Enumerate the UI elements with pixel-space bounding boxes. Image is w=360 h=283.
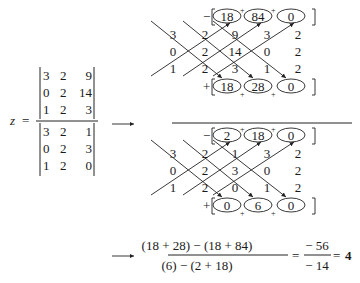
plus-product: 6: [255, 198, 262, 213]
result-expression: (18 + 28) − (18 + 84) (6) − (2 + 18) = −…: [142, 238, 352, 273]
grid-cell: 14: [229, 44, 243, 59]
matrix-cell: 2: [60, 124, 67, 139]
matrix-cell: 0: [43, 141, 50, 156]
grid-cell: 2: [295, 180, 302, 195]
diagonal-arrow-icon: [213, 140, 286, 197]
numerator-determinant: 3 2 9 0 2 14 1 2 3: [40, 67, 94, 119]
grid-cell: 3: [170, 146, 177, 161]
z-variable: z: [9, 113, 15, 128]
plus-product: 0: [288, 79, 295, 94]
matrix-cell: 0: [43, 85, 50, 100]
plus-sign: +: [240, 209, 245, 218]
grid-cell: 3: [264, 146, 271, 161]
matrix-cell: 2: [60, 68, 67, 83]
plus-sign: +: [271, 209, 276, 218]
minus-product: 84: [252, 9, 266, 24]
grid-cell: 3: [232, 163, 239, 178]
matrix-cell: 2: [60, 85, 67, 100]
equals-sign: =: [292, 248, 299, 263]
matrix-cell: 9: [86, 68, 93, 83]
plus-product: 18: [221, 79, 234, 94]
matrix-cell: 3: [86, 102, 93, 117]
sarrus-grid-denominator: −2+18+0+0+6+0321320230212012: [151, 125, 315, 218]
right-bracket: [312, 128, 315, 144]
simplified-denominator: − 14: [305, 258, 329, 273]
plus-sign: +: [271, 90, 276, 99]
diagonal-arrow-icon: [151, 21, 222, 78]
grid-cell: 2: [202, 44, 209, 59]
grid-cell: 2: [202, 61, 209, 76]
plus-sign: +: [203, 79, 210, 94]
grid-cell: 2: [295, 146, 302, 161]
minus-product: 2: [224, 128, 231, 143]
right-bracket: [312, 9, 315, 25]
sarrus-determinant-figure: z = 3 2 9 0 2 14 1 2 3 3 2 1 0 2 3 1: [0, 0, 360, 283]
right-bracket: [312, 198, 315, 214]
diagonal-arrow-icon: [151, 140, 222, 197]
matrix-cell: 3: [43, 68, 50, 83]
result-numerator: (18 + 28) − (18 + 84): [142, 238, 253, 253]
right-bracket: [312, 79, 315, 95]
result-value: 4: [345, 248, 352, 263]
matrix-cell: 3: [43, 124, 50, 139]
matrix-cell: 1: [43, 102, 50, 117]
grid-cell: 3: [264, 27, 271, 42]
grid-cell: 2: [295, 163, 302, 178]
grid-cell: 0: [264, 163, 271, 178]
minus-sign: −: [203, 9, 210, 24]
lhs-fraction: z = 3 2 9 0 2 14 1 2 3 3 2 1 0 2 3 1: [9, 67, 98, 176]
matrix-cell: 1: [43, 158, 50, 173]
minus-product: 18: [221, 9, 234, 24]
equals-sign: =: [333, 248, 340, 263]
equals-sign: =: [22, 113, 29, 128]
grid-cell: 0: [264, 44, 271, 59]
grid-cell: 0: [170, 163, 177, 178]
minus-product: 0: [288, 9, 295, 24]
minus-product: 0: [288, 128, 295, 143]
matrix-cell: 3: [86, 141, 93, 156]
matrix-cell: 2: [60, 141, 67, 156]
diagonal-arrow-icon: [183, 21, 253, 78]
plus-product: 0: [224, 198, 231, 213]
grid-cell: 2: [295, 27, 302, 42]
diagonal-arrow-icon: [213, 21, 286, 78]
plus-sign: +: [271, 6, 276, 15]
grid-cell: 2: [295, 61, 302, 76]
denominator-determinant: 3 2 1 0 2 3 1 2 0: [40, 123, 94, 176]
result-denominator: (6) − (2 + 18): [162, 258, 233, 273]
diagonal-arrow-icon: [183, 140, 253, 197]
matrix-cell: 0: [86, 158, 93, 173]
simplified-numerator: − 56: [305, 238, 329, 253]
grid-cell: 2: [202, 180, 209, 195]
grid-cell: 2: [295, 44, 302, 59]
plus-product: 0: [288, 198, 295, 213]
matrix-cell: 2: [60, 158, 67, 173]
plus-sign: +: [240, 90, 245, 99]
matrix-cell: 1: [86, 124, 93, 139]
plus-product: 28: [252, 79, 265, 94]
grid-cell: 3: [170, 27, 177, 42]
matrix-cell: 14: [79, 85, 93, 100]
plus-sign: +: [203, 198, 210, 213]
minus-sign: −: [203, 128, 210, 143]
sarrus-grid-numerator: −18+84+0+18+28+03293202140212312: [151, 6, 315, 99]
matrix-cell: 2: [60, 102, 67, 117]
minus-product: 18: [252, 128, 265, 143]
grid-cell: 2: [202, 163, 209, 178]
plus-sign: +: [271, 125, 276, 134]
grid-cell: 0: [170, 44, 177, 59]
